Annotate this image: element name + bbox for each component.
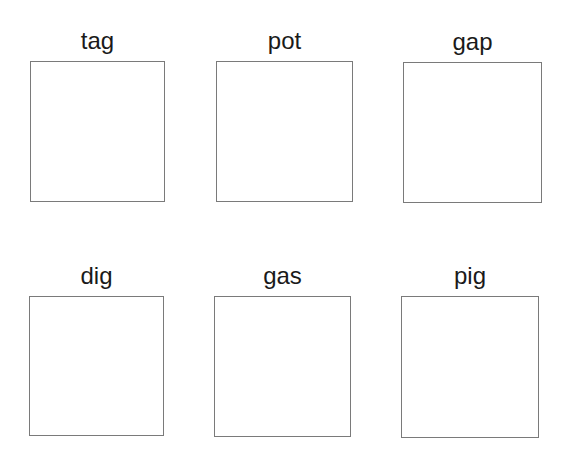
word-cell-pig: pig	[401, 263, 539, 438]
drawing-box[interactable]	[216, 61, 353, 202]
drawing-box[interactable]	[30, 61, 165, 202]
drawing-box[interactable]	[29, 296, 164, 436]
word-cell-gap: gap	[403, 29, 542, 203]
word-label: dig	[29, 264, 164, 288]
word-label: pot	[216, 29, 353, 53]
word-label: gas	[214, 264, 351, 288]
word-cell-tag: tag	[30, 28, 165, 202]
word-label: tag	[30, 29, 165, 53]
drawing-box[interactable]	[403, 62, 542, 203]
word-cell-gas: gas	[214, 263, 351, 437]
drawing-box[interactable]	[214, 296, 351, 437]
word-label: gap	[403, 30, 542, 54]
word-cell-dig: dig	[29, 263, 164, 436]
word-cell-pot: pot	[216, 28, 353, 202]
word-label: pig	[401, 264, 539, 288]
drawing-box[interactable]	[401, 296, 539, 438]
